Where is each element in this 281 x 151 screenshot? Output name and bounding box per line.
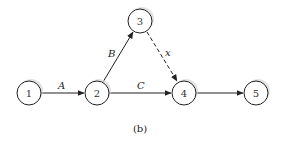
edge-labels: A B C x: [57, 47, 171, 91]
node-4: 4: [172, 79, 198, 105]
node-label-1: 1: [26, 88, 32, 99]
node-3: 3: [128, 7, 154, 33]
node-1: 1: [17, 79, 43, 105]
node-label-3: 3: [137, 16, 143, 27]
node-label-4: 4: [181, 88, 187, 99]
node-5: 5: [244, 79, 270, 105]
edge-label-A: A: [57, 80, 65, 91]
figure-caption: (b): [133, 123, 147, 134]
network-diagram: A B C x 1 2 3 4 5 (: [0, 0, 281, 151]
node-label-2: 2: [94, 88, 100, 99]
edge-label-x: x: [165, 47, 171, 58]
node-label-5: 5: [253, 88, 259, 99]
edge-x-3-to-4-dummy: [147, 32, 177, 81]
edge-label-B: B: [107, 48, 115, 59]
node-2: 2: [85, 79, 111, 105]
edge-label-C: C: [137, 80, 145, 91]
